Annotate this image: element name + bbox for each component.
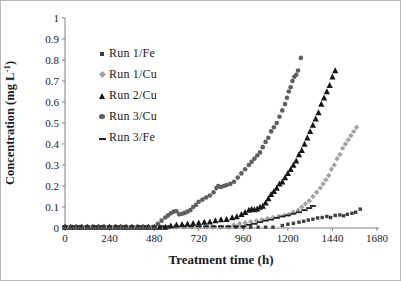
legend-item-run1-cu: Run 1/Cu (97, 64, 157, 85)
svg-text:720: 720 (190, 232, 207, 244)
svg-text:0.9: 0.9 (45, 33, 59, 45)
chart-figure: 00.10.20.30.40.50.60.70.80.9102404807209… (0, 0, 401, 281)
svg-text:960: 960 (235, 232, 252, 244)
scatter-plot: 00.10.20.30.40.50.60.70.80.9102404807209… (1, 1, 401, 281)
legend-item-run3-fe: Run 3/Fe (97, 127, 157, 148)
y-axis-title: Concentration (mg L-1) (2, 61, 17, 185)
svg-text:1200: 1200 (277, 232, 300, 244)
svg-text:1: 1 (54, 12, 60, 24)
svg-text:0.3: 0.3 (45, 159, 59, 171)
svg-text:0.1: 0.1 (45, 201, 59, 213)
svg-text:0.5: 0.5 (45, 117, 59, 129)
svg-text:1680: 1680 (366, 232, 389, 244)
legend-item-run3-cu: Run 3/Cu (97, 106, 157, 127)
legend-item-run2-cu: Run 2/Cu (97, 85, 157, 106)
legend-label: Run 2/Cu (109, 88, 157, 103)
dash-marker-icon (97, 136, 107, 140)
svg-text:0: 0 (54, 222, 60, 234)
svg-text:0: 0 (62, 232, 68, 244)
legend-label: Run 3/Fe (109, 130, 155, 145)
legend-item-run1-fe: Run 1/Fe (97, 43, 157, 64)
svg-text:0.7: 0.7 (45, 75, 59, 87)
square-marker-icon (97, 52, 107, 56)
svg-text:240: 240 (101, 232, 118, 244)
legend: Run 1/Fe Run 1/Cu Run 2/Cu Run 3/Cu Run … (97, 43, 157, 148)
circle-marker-icon (97, 114, 107, 120)
svg-text:0.2: 0.2 (45, 180, 59, 192)
x-axis-title: Treatment time (h) (169, 252, 274, 267)
svg-text:0.6: 0.6 (45, 96, 59, 108)
svg-text:0.8: 0.8 (45, 54, 59, 66)
legend-label: Run 1/Fe (109, 46, 155, 61)
diamond-marker-icon (97, 72, 107, 77)
legend-label: Run 1/Cu (109, 67, 157, 82)
svg-text:1440: 1440 (321, 232, 344, 244)
svg-text:0.4: 0.4 (45, 138, 59, 150)
legend-label: Run 3/Cu (109, 109, 157, 124)
svg-text:480: 480 (146, 232, 163, 244)
triangle-marker-icon (97, 93, 107, 99)
